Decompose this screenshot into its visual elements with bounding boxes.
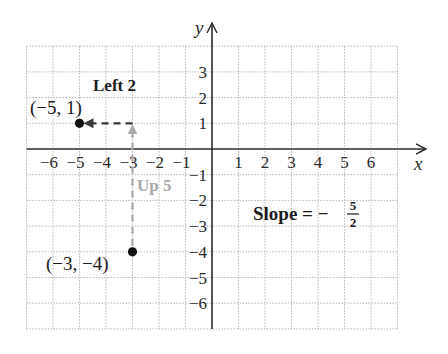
x-tick-label: −6	[40, 153, 58, 172]
x-axis-label: x	[413, 153, 423, 174]
y-tick-labels: 321−1−2−3−4−5−6	[189, 63, 208, 313]
left-2-label: Left 2	[93, 76, 136, 95]
slope-text: Slope = −	[253, 203, 329, 224]
point-label-neg5-1: (−5, 1)	[30, 97, 82, 119]
x-tick-label: 2	[261, 153, 270, 172]
y-tick-label: 1	[199, 114, 208, 133]
y-tick-label: 3	[199, 63, 208, 82]
y-tick-label: −3	[189, 217, 207, 236]
up-5-label: Up 5	[137, 176, 171, 195]
x-tick-label: 4	[314, 153, 323, 172]
y-tick-label: −6	[189, 294, 207, 313]
x-tick-label: 5	[340, 153, 349, 172]
x-tick-label: 6	[367, 153, 376, 172]
y-tick-label: −5	[189, 269, 207, 288]
slope-denominator: 2	[350, 215, 357, 230]
x-tick-label: −1	[172, 153, 190, 172]
y-tick-label: −2	[189, 191, 207, 210]
x-tick-label: −3	[119, 153, 137, 172]
x-tick-label: 1	[234, 153, 243, 172]
y-tick-label: −1	[189, 166, 207, 185]
coordinate-plane-figure: x y −6−5−4−3−2−1123456 321−1−2−3−4−5−6 U…	[0, 0, 448, 354]
x-tick-label: −2	[146, 153, 164, 172]
coordinate-plane-svg: x y −6−5−4−3−2−1123456 321−1−2−3−4−5−6 U…	[0, 0, 448, 354]
point-neg5-1	[75, 119, 84, 128]
slope-numerator: 5	[350, 198, 357, 213]
y-tick-label: −4	[189, 243, 208, 262]
slope-annotation: Slope = − 5 2	[253, 198, 359, 230]
x-tick-labels: −6−5−4−3−2−1123456	[40, 153, 375, 172]
point-neg3-neg4	[128, 247, 137, 256]
x-tick-label: 3	[287, 153, 296, 172]
y-tick-label: 2	[199, 89, 208, 108]
x-tick-label: −4	[93, 153, 112, 172]
y-axis-label: y	[193, 17, 204, 38]
point-label-neg3-neg4: (−3, −4)	[46, 253, 109, 275]
x-tick-label: −5	[66, 153, 84, 172]
